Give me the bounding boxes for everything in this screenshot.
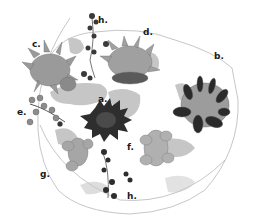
label-d: d. [143,28,153,37]
label-h-bottom: h. [127,192,137,201]
plant-g-leafy [62,138,93,171]
plant-d-rosette [100,36,160,84]
label-e: e. [17,108,27,117]
label-c: c. [32,40,41,49]
label-h-top: h. [98,16,108,25]
label-f: f. [127,143,134,152]
label-g: g. [40,170,50,179]
label-b: b. [214,52,224,61]
label-a: a. [98,95,108,104]
